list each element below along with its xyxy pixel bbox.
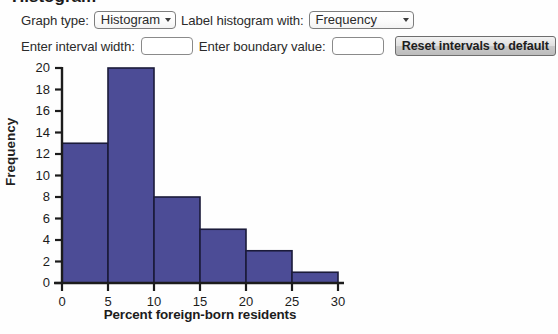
interval-width-label: Enter interval width: — [21, 39, 135, 54]
histogram-plot-area — [0, 56, 420, 306]
graph-type-selected-value: Histogram — [101, 13, 160, 27]
histogram-bar — [292, 272, 338, 283]
boundary-value-input[interactable] — [332, 37, 384, 55]
controls-panel: Graph type: Histogram Label histogram wi… — [0, 8, 558, 58]
clipped-page-title-text: Histogram — [12, 0, 96, 7]
chevron-down-icon — [403, 18, 409, 22]
histogram-tool-screen: Histogram Graph type: Histogram Label hi… — [0, 0, 558, 334]
reset-intervals-button[interactable]: Reset intervals to default — [395, 36, 556, 56]
graph-type-dropdown[interactable]: Histogram — [94, 11, 176, 29]
label-histogram-with-selected-value: Frequency — [316, 13, 398, 27]
interval-width-input[interactable] — [141, 37, 193, 55]
controls-row-2: Enter interval width: Enter boundary val… — [0, 34, 558, 58]
chevron-down-icon — [165, 18, 171, 22]
histogram-bar — [154, 197, 200, 283]
label-histogram-with-label: Label histogram with: — [181, 13, 304, 28]
histogram-bar — [246, 251, 292, 283]
histogram-bar — [62, 143, 108, 283]
histogram-bar — [200, 229, 246, 283]
x-axis-label: Percent foreign-born residents — [0, 307, 400, 322]
histogram-chart: Frequency Percent foreign-born residents… — [0, 56, 558, 334]
boundary-value-label: Enter boundary value: — [199, 39, 326, 54]
graph-type-label: Graph type: — [21, 13, 89, 28]
clipped-page-title: Histogram — [0, 0, 558, 7]
controls-row-1: Graph type: Histogram Label histogram wi… — [0, 8, 558, 32]
histogram-bar — [108, 68, 154, 283]
label-histogram-with-dropdown[interactable]: Frequency — [309, 11, 414, 29]
